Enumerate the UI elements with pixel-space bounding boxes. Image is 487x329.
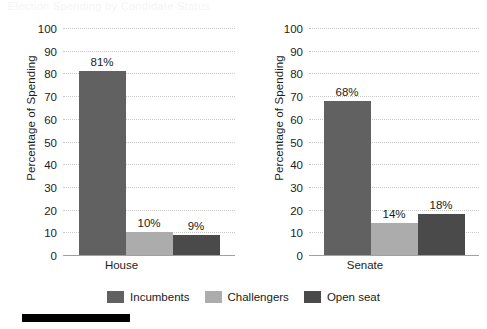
bar-challengers	[371, 223, 418, 255]
y-axis-tick-label: 10	[44, 227, 57, 239]
y-axis-tick-label: 90	[290, 46, 303, 58]
y-axis-title-senate: Percentage of Spending	[273, 18, 285, 218]
y-axis-tick-label: 50	[290, 137, 303, 149]
bar-series-senate: 68%14%18%	[309, 28, 479, 255]
plot-area-senate: 0102030405060708090100 68%14%18%	[309, 28, 479, 255]
gridline: 0	[63, 255, 235, 256]
x-axis-category-senate: Senate	[243, 259, 487, 271]
bar-series-house: 81%10%9%	[63, 28, 235, 255]
bar-value-label: 68%	[335, 86, 358, 98]
legend-swatch-icon	[304, 291, 321, 303]
bar-incumbents	[324, 101, 371, 255]
legend-swatch-icon	[205, 291, 222, 303]
bar-group: 14%	[371, 28, 418, 255]
y-axis-title-house: Percentage of Spending	[25, 18, 37, 218]
y-axis-tick-label: 10	[290, 227, 303, 239]
y-axis-tick-label: 20	[290, 205, 303, 217]
legend-item-incumbents[interactable]: Incumbents	[107, 291, 189, 303]
legend-label: Incumbents	[130, 291, 189, 303]
bar-value-label: 9%	[188, 220, 205, 232]
bar-open-seat	[418, 214, 465, 255]
plot-area-house: 0102030405060708090100 81%10%9%	[63, 28, 235, 255]
page-bleed-through-text: Election Spending by Candidate Status	[8, 0, 308, 14]
bar-value-label: 10%	[137, 217, 160, 229]
y-axis-tick-label: 50	[44, 137, 57, 149]
y-axis-tick-label: 60	[44, 114, 57, 126]
bar-open-seat	[173, 235, 220, 255]
bar-group: 81%	[79, 28, 126, 255]
y-axis-tick-label: 90	[44, 46, 57, 58]
y-axis-tick-label: 100	[284, 23, 303, 35]
bar-value-label: 81%	[90, 56, 113, 68]
bar-incumbents	[79, 71, 126, 255]
y-axis-tick-label: 40	[290, 159, 303, 171]
chart-group: Percentage of Spending 01020304050607080…	[0, 18, 487, 280]
bar-challengers	[126, 232, 173, 255]
legend-item-challengers[interactable]: Challengers	[205, 291, 289, 303]
y-axis-tick-label: 30	[44, 182, 57, 194]
legend-swatch-icon	[107, 291, 124, 303]
chart-panel-senate: Percentage of Spending 01020304050607080…	[243, 18, 487, 280]
y-axis-tick-label: 40	[44, 159, 57, 171]
legend-label: Challengers	[228, 291, 289, 303]
y-axis-tick-label: 30	[290, 182, 303, 194]
y-axis-tick-label: 80	[44, 68, 57, 80]
bar-value-label: 14%	[382, 208, 405, 220]
chart-legend: IncumbentsChallengersOpen seat	[0, 291, 487, 303]
y-axis-tick-label: 100	[38, 23, 57, 35]
y-axis-tick-label: 20	[44, 205, 57, 217]
bar-group: 10%	[126, 28, 173, 255]
legend-label: Open seat	[327, 291, 380, 303]
bar-group: 9%	[173, 28, 220, 255]
x-axis-category-house: House	[0, 259, 243, 271]
gridline: 0	[309, 255, 479, 256]
legend-item-open-seat[interactable]: Open seat	[304, 291, 380, 303]
chart-panel-house: Percentage of Spending 01020304050607080…	[0, 18, 243, 280]
y-axis-tick-label: 80	[290, 68, 303, 80]
y-axis-tick-label: 70	[290, 91, 303, 103]
bar-group: 68%	[324, 28, 371, 255]
y-axis-tick-label: 70	[44, 91, 57, 103]
source-redaction-bar	[22, 314, 130, 322]
bar-value-label: 18%	[429, 199, 452, 211]
y-axis-tick-label: 60	[290, 114, 303, 126]
bar-group: 18%	[418, 28, 465, 255]
